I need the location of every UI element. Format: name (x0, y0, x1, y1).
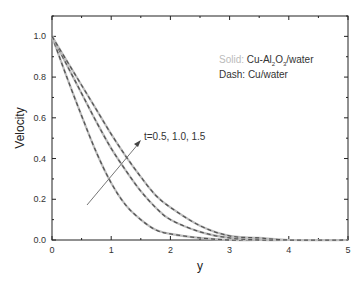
velocity-chart: 0123450.00.20.40.60.81.0 y Velocity Soli… (0, 0, 364, 285)
legend: Solid: Cu-Al2O3/water Dash: Cu/water (219, 54, 314, 80)
x-tick-label: 4 (286, 245, 291, 255)
y-tick-label: 0.4 (33, 154, 46, 164)
x-tick-label: 0 (49, 245, 54, 255)
legend-solid: Solid: Cu-Al2O3/water (219, 54, 314, 67)
x-tick-label: 2 (168, 245, 173, 255)
y-tick-label: 0.8 (33, 72, 46, 82)
chart-canvas: 0123450.00.20.40.60.81.0 y Velocity Soli… (0, 0, 364, 285)
y-tick-label: 0.6 (33, 113, 46, 123)
y-tick-label: 0.2 (33, 194, 46, 204)
plot-frame (52, 16, 348, 240)
arrow-head-icon (134, 140, 141, 147)
x-tick-label: 1 (109, 245, 114, 255)
legend-dash: Dash: Cu/water (219, 69, 289, 80)
y-axis-label: Velocity (13, 107, 27, 148)
x-tick-label: 3 (227, 245, 232, 255)
y-tick-label: 0.0 (33, 235, 46, 245)
legend-solid-prefix: Solid: (219, 54, 244, 65)
x-tick-label: 5 (345, 245, 350, 255)
axis-ticks (52, 16, 348, 240)
x-axis-label: y (197, 259, 203, 273)
t-annotation: t=0.5, 1.0, 1.5 (144, 131, 206, 142)
y-tick-label: 1.0 (33, 31, 46, 41)
